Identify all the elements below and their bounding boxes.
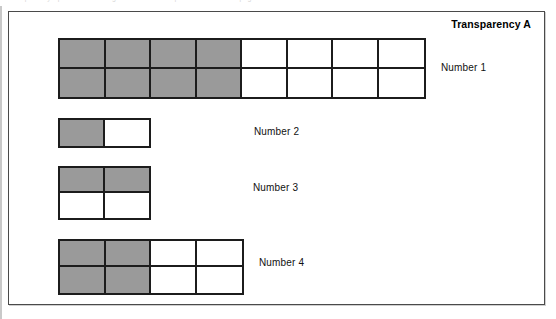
grid-cell-shaded: [151, 69, 197, 98]
grid-cell-empty: [197, 267, 243, 293]
grid-cell-shaded: [106, 69, 152, 98]
scan-cutoff-header-text: Transparency · printed master · grade fr…: [6, 0, 256, 1]
figure-label-4: Number 4: [259, 257, 304, 268]
grid-cell-shaded: [197, 40, 243, 69]
grid-cell-shaded: [106, 267, 152, 293]
grid-cell-empty: [242, 40, 288, 69]
fraction-grid-1: [58, 38, 426, 99]
grid-cell-empty: [105, 193, 150, 218]
fraction-grid-4: [58, 239, 244, 295]
grid-cell-empty: [379, 40, 425, 69]
grid-cell-shaded: [60, 120, 105, 146]
grid-cell-shaded: [106, 40, 152, 69]
grid-cell-shaded: [60, 40, 106, 69]
grid-cell-empty: [151, 241, 197, 267]
grid-cell-empty: [333, 40, 379, 69]
grid-cell-shaded: [60, 241, 106, 267]
figure-label-3: Number 3: [253, 182, 298, 193]
figure-label-2: Number 2: [254, 126, 299, 137]
fraction-grid-3: [58, 166, 151, 220]
fraction-grid-2: [58, 118, 151, 148]
grid-cell-empty: [60, 193, 105, 218]
grid-cell-empty: [197, 241, 243, 267]
scan-left-edge-artifact: [0, 6, 2, 319]
grid-cell-shaded: [105, 168, 150, 193]
grid-cell-empty: [288, 40, 334, 69]
grid-cell-empty: [151, 267, 197, 293]
grid-cell-empty: [242, 69, 288, 98]
grid-cell-shaded: [60, 69, 106, 98]
grid-cell-shaded: [151, 40, 197, 69]
transparency-frame: Transparency A Number 1 Number 2 Number …: [8, 11, 545, 305]
grid-cell-shaded: [60, 267, 106, 293]
grid-cell-shaded: [60, 168, 105, 193]
scan-top-artifact-strip: Transparency · printed master · grade fr…: [0, 0, 556, 7]
figure-label-1: Number 1: [441, 62, 486, 73]
grid-cell-empty: [105, 120, 150, 146]
grid-cell-shaded: [106, 241, 152, 267]
grid-cell-empty: [333, 69, 379, 98]
grid-cell-empty: [288, 69, 334, 98]
grid-cell-shaded: [197, 69, 243, 98]
transparency-title: Transparency A: [451, 18, 531, 30]
grid-cell-empty: [379, 69, 425, 98]
